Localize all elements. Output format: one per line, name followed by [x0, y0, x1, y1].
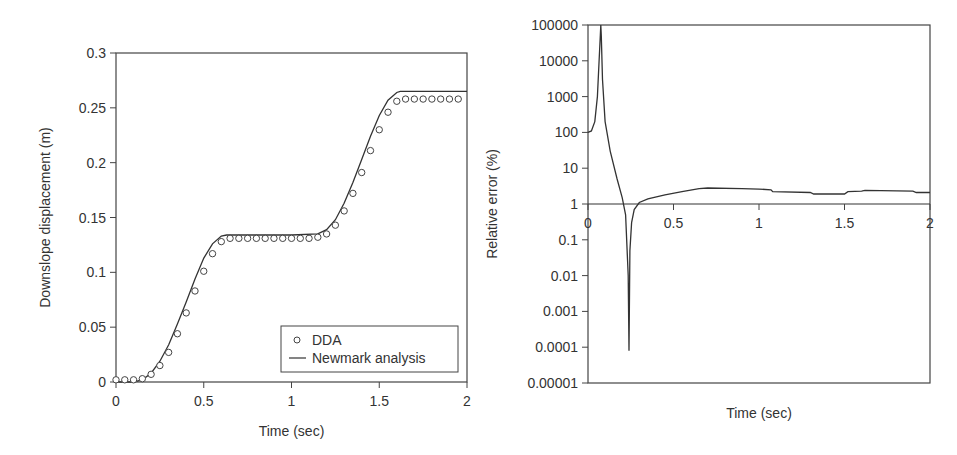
y-tick-label: 10 — [562, 160, 578, 176]
dda-point — [376, 127, 382, 133]
dda-point — [218, 238, 224, 244]
dda-point — [174, 331, 180, 337]
y-tick-label: 0 — [98, 374, 106, 390]
dda-point — [280, 235, 286, 241]
dda-point — [420, 96, 426, 102]
dda-point — [244, 235, 250, 241]
right-y-axis: 0.000010.00010.0010.010.1110100100010000… — [527, 17, 588, 391]
dda-point — [113, 377, 119, 383]
dda-point — [367, 147, 373, 153]
dda-point — [437, 96, 443, 102]
dda-point — [288, 235, 294, 241]
dda-point — [350, 190, 356, 196]
x-tick-label: 2 — [926, 215, 934, 231]
dda-point — [122, 377, 128, 383]
dda-point — [271, 235, 277, 241]
dda-point — [236, 235, 242, 241]
dda-point — [411, 96, 417, 102]
dda-point — [446, 96, 452, 102]
displacement-chart: 00.050.10.150.20.250.3 00.511.52 Time (s… — [37, 45, 471, 439]
x-tick-label: 1 — [288, 393, 296, 409]
x-tick-label: 0 — [112, 393, 120, 409]
y-tick-label: 0.001 — [543, 303, 578, 319]
dda-point — [253, 235, 259, 241]
x-tick-label: 1 — [755, 215, 763, 231]
y-tick-label: 0.3 — [87, 45, 107, 61]
dda-point — [297, 235, 303, 241]
x-tick-label: 1.5 — [835, 215, 855, 231]
dda-point — [139, 376, 145, 382]
y-tick-label: 10000 — [539, 53, 578, 69]
dda-point — [227, 235, 233, 241]
x-tick-label: 0.5 — [664, 215, 684, 231]
y-tick-label: 0.01 — [551, 268, 578, 284]
dda-point — [201, 268, 207, 274]
relative-error-line — [588, 25, 930, 351]
dda-point — [385, 109, 391, 115]
y-tick-label: 0.0001 — [535, 339, 578, 355]
y-tick-label: 0.15 — [79, 210, 106, 226]
dda-point — [323, 231, 329, 237]
dda-point — [183, 310, 189, 316]
y-tick-label: 1 — [570, 196, 578, 212]
left-y-axis: 00.050.10.150.20.250.3 — [79, 45, 116, 390]
dda-point — [394, 98, 400, 104]
x-tick-label: 0.5 — [194, 393, 214, 409]
right-y-axis-title: Relative error (%) — [484, 149, 500, 259]
figure: 00.050.10.150.20.250.3 00.511.52 Time (s… — [0, 0, 957, 455]
x-tick-label: 2 — [463, 393, 471, 409]
y-tick-label: 100 — [555, 124, 579, 140]
y-tick-label: 0.00001 — [527, 375, 578, 391]
y-tick-label: 100000 — [531, 17, 578, 33]
dda-point — [455, 96, 461, 102]
y-tick-label: 0.1 — [87, 264, 107, 280]
right-x-axis: 00.511.52 — [584, 204, 934, 231]
dda-point — [315, 234, 321, 240]
y-tick-label: 1000 — [547, 89, 578, 105]
right-x-axis-title: Time (sec) — [726, 405, 792, 421]
dda-point — [192, 288, 198, 294]
dda-point — [359, 169, 365, 175]
y-tick-label: 0.1 — [559, 232, 579, 248]
dda-point — [429, 96, 435, 102]
dda-point — [306, 235, 312, 241]
legend-entry-newmark: Newmark analysis — [312, 350, 426, 366]
dda-point — [130, 377, 136, 383]
dda-point — [402, 96, 408, 102]
left-y-axis-title: Downslope displacement (m) — [37, 127, 53, 308]
dda-point — [341, 208, 347, 214]
dda-point — [157, 362, 163, 368]
y-tick-label: 0.2 — [87, 155, 107, 171]
dda-point — [148, 371, 154, 377]
x-tick-label: 0 — [584, 215, 592, 231]
dda-point — [165, 349, 171, 355]
y-tick-label: 0.25 — [79, 100, 106, 116]
legend-entry-dda: DDA — [312, 332, 342, 348]
legend: DDA Newmark analysis — [281, 326, 458, 372]
dda-point — [262, 235, 268, 241]
dda-point — [332, 222, 338, 228]
dda-point — [209, 250, 215, 256]
left-x-axis-title: Time (sec) — [259, 423, 325, 439]
left-x-axis: 00.511.52 — [112, 382, 471, 409]
relative-error-chart: 0.000010.00010.0010.010.1110100100010000… — [484, 17, 934, 421]
y-tick-label: 0.05 — [79, 319, 106, 335]
x-tick-label: 1.5 — [370, 393, 390, 409]
